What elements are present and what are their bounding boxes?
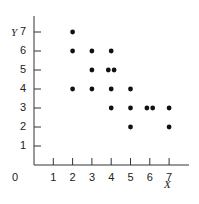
data-point	[70, 49, 75, 54]
data-point	[167, 106, 172, 111]
y-tick-label: 2	[20, 121, 26, 132]
x-tick-label: 2	[70, 172, 76, 183]
y-tick-label: 1	[20, 140, 26, 151]
data-point	[90, 68, 95, 73]
data-point	[70, 87, 75, 92]
data-point	[109, 87, 114, 92]
x-tick-label: 1	[50, 172, 56, 183]
data-point	[145, 106, 150, 111]
y-tick-label: 4	[20, 83, 26, 94]
x-tick-label: 4	[108, 172, 114, 183]
data-point	[128, 125, 133, 130]
y-tick-label: 6	[20, 45, 26, 56]
data-point	[167, 125, 172, 130]
data-point	[90, 87, 95, 92]
data-point	[70, 30, 75, 35]
scatter-chart: 12345671234567 Y X 0	[0, 0, 199, 204]
data-point	[109, 49, 114, 54]
data-point	[106, 68, 111, 73]
x-tick-label: 3	[89, 172, 95, 183]
data-point	[112, 68, 117, 73]
x-tick-label: 5	[128, 172, 134, 183]
data-point	[109, 106, 114, 111]
y-tick-label: 5	[20, 64, 26, 75]
y-axis-title: Y	[11, 26, 17, 38]
y-tick-label: 3	[20, 102, 26, 113]
data-point	[128, 87, 133, 92]
x-axis-title: X	[164, 178, 171, 190]
data-point	[150, 106, 155, 111]
data-point	[128, 106, 133, 111]
x-tick-label: 6	[147, 172, 153, 183]
data-point	[90, 49, 95, 54]
origin-label: 0	[12, 172, 18, 183]
y-tick-label: 7	[20, 26, 26, 37]
